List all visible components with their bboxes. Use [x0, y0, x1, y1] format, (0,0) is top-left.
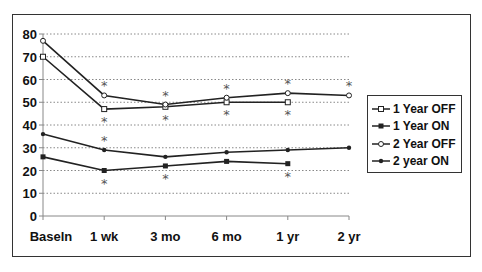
legend-label: 2 year ON — [393, 154, 449, 168]
y-tick-label: 80 — [23, 27, 37, 42]
filled-circle-marker-icon — [371, 156, 391, 166]
x-tick-label: 6 mo — [211, 229, 241, 244]
series-line — [43, 134, 349, 157]
figure-caption-cropped — [0, 263, 482, 272]
significance-asterisk: * — [285, 169, 292, 184]
significance-asterisk: * — [223, 81, 230, 96]
significance-asterisk: * — [162, 112, 169, 127]
legend-item-2-year-on: 2 year ON — [371, 153, 458, 171]
significance-asterisk: * — [162, 171, 169, 186]
axes — [39, 34, 349, 220]
x-tick-label: Baseln — [30, 229, 73, 244]
legend-label: 1 Year ON — [393, 119, 449, 133]
y-tick-label: 30 — [23, 141, 37, 156]
y-tick-label: 60 — [23, 73, 37, 88]
significance-asterisk: * — [101, 176, 108, 191]
y-tick-label: 50 — [23, 95, 37, 110]
y-tick-label: 70 — [23, 50, 37, 65]
y-tick-label: 0 — [30, 209, 37, 224]
y-tick-label: 40 — [23, 118, 37, 133]
series-lines — [41, 38, 352, 173]
x-tick-label: 2 yr — [337, 229, 360, 244]
significance-asterisk: * — [285, 76, 292, 91]
open-square-marker-icon — [371, 104, 391, 114]
significance-asterisk: * — [101, 78, 108, 93]
y-axis-labels: 01020304050607080 — [23, 27, 37, 224]
significance-asterisks: ************* — [101, 76, 353, 190]
y-tick-label: 20 — [23, 164, 37, 179]
gridlines — [43, 34, 351, 193]
filled-square-marker-icon — [371, 121, 391, 131]
legend-item-2-year-off: 2 Year OFF — [371, 135, 458, 153]
legend-item-1-year-on: 1 Year ON — [371, 118, 458, 136]
significance-asterisk: * — [101, 114, 108, 129]
significance-asterisk: * — [162, 88, 169, 103]
significance-asterisk: * — [223, 107, 230, 122]
x-axis-labels: Baseln1 wk3 mo6 mo1 yr2 yr — [30, 229, 361, 244]
x-tick-label: 1 wk — [90, 229, 119, 244]
legend-label: 1 Year OFF — [393, 102, 455, 116]
y-tick-label: 10 — [23, 186, 37, 201]
x-tick-label: 1 yr — [276, 229, 299, 244]
legend: 1 Year OFF 1 Year ON 2 Year OFF 2 year O… — [367, 95, 462, 173]
significance-asterisk: * — [101, 133, 108, 148]
significance-asterisk: * — [346, 78, 353, 93]
significance-asterisk: * — [285, 107, 292, 122]
legend-label: 2 Year OFF — [393, 137, 455, 151]
x-tick-label: 3 mo — [150, 229, 180, 244]
open-circle-marker-icon — [371, 139, 391, 149]
legend-item-1-year-off: 1 Year OFF — [371, 100, 458, 118]
